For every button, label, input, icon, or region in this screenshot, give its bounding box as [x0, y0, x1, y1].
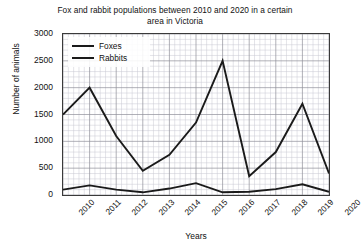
- y-tick-label: 2000: [34, 83, 53, 91]
- y-tick-label: 0: [48, 190, 53, 198]
- x-tick-label: 2011: [103, 197, 123, 217]
- series-line-foxes: [63, 183, 329, 192]
- x-tick-label: 2016: [236, 197, 256, 217]
- x-tick-label: 2017: [263, 197, 283, 217]
- x-tick-label: 2019: [316, 197, 336, 217]
- legend-label-foxes: Foxes: [99, 41, 122, 51]
- y-tick-label: 1000: [34, 136, 53, 144]
- legend-item-rabbits: Rabbits: [72, 52, 147, 64]
- y-tick-label: 3000: [34, 29, 53, 37]
- legend-line-swatch-foxes: [72, 45, 94, 47]
- x-axis-tick-labels: 2010201120122013201420152016201720182019…: [62, 197, 330, 235]
- chart-legend: Foxes Rabbits: [68, 37, 150, 67]
- x-tick-label: 2014: [183, 197, 203, 217]
- chart-title: Fox and rabbit populations between 2010 …: [50, 5, 300, 27]
- x-tick-label: 2020: [342, 197, 362, 217]
- x-tick-label: 2010: [76, 197, 96, 217]
- legend-item-foxes: Foxes: [72, 40, 147, 52]
- chart-title-line-1: Fox and rabbit populations between 2010 …: [57, 5, 264, 15]
- x-axis-title: Years: [62, 231, 330, 241]
- x-tick-label: 2015: [209, 197, 229, 217]
- x-tick-label: 2013: [156, 197, 176, 217]
- y-tick-label: 500: [39, 163, 53, 171]
- y-axis-tick-labels: 050010001500200025003000: [0, 33, 58, 196]
- legend-label-rabbits: Rabbits: [99, 53, 127, 63]
- legend-line-swatch-rabbits: [72, 57, 94, 59]
- x-tick-label: 2018: [289, 197, 309, 217]
- y-tick-label: 1500: [34, 110, 53, 118]
- x-tick-label: 2012: [130, 197, 150, 217]
- series-line-rabbits: [63, 61, 329, 176]
- y-tick-label: 2500: [34, 56, 53, 64]
